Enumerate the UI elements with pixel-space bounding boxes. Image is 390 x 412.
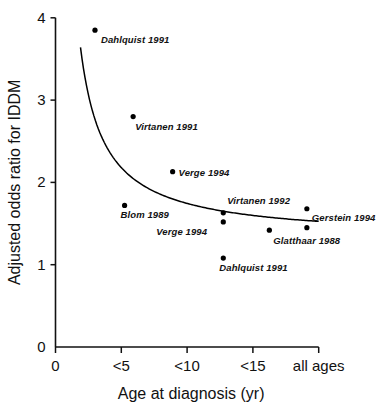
data-point <box>221 219 226 224</box>
data-point <box>221 256 226 261</box>
point-label: Dahlquist 1991 <box>219 262 287 273</box>
data-point <box>304 206 309 211</box>
x-tick-label-2: <10 <box>174 357 199 374</box>
x-tick-label-1: <5 <box>113 357 130 374</box>
y-tick-label-2: 2 <box>37 173 45 190</box>
data-point <box>267 228 272 233</box>
x-tick-label-4: all ages <box>293 357 345 374</box>
x-tick-label-0: 0 <box>51 357 59 374</box>
x-tick-label-3: <15 <box>240 357 265 374</box>
point-label: Verge 1994 <box>179 167 230 178</box>
data-point <box>170 169 175 174</box>
point-label: Virtanen 1992 <box>227 195 290 206</box>
y-tick-label-4: 4 <box>37 9 45 26</box>
x-axis-title: Age at diagnosis (yr) <box>118 385 265 402</box>
scatter-plot: 012340<5<10<15all ages Dahlquist 1991Vir… <box>0 0 390 412</box>
y-axis-title: Adjusted odds ratio for IDDM <box>6 80 23 285</box>
y-tick-label-0: 0 <box>37 338 45 355</box>
data-points: Dahlquist 1991Virtanen 1991Verge 1994Blo… <box>92 28 376 274</box>
point-label: Virtanen 1991 <box>135 121 198 132</box>
y-tick-label-3: 3 <box>37 91 45 108</box>
data-point <box>122 203 127 208</box>
point-label: Verge 1994 <box>156 226 207 237</box>
point-label: Blom 1989 <box>121 209 170 220</box>
y-tick-label-1: 1 <box>37 256 45 273</box>
data-point <box>304 225 309 230</box>
data-point <box>131 114 136 119</box>
chart-figure: 012340<5<10<15all ages Dahlquist 1991Vir… <box>0 0 390 412</box>
point-label: Gerstein 1994 <box>312 212 376 223</box>
data-point <box>92 28 97 33</box>
point-label: Dahlquist 1991 <box>101 34 169 45</box>
point-label: Glatthaar 1988 <box>273 235 340 246</box>
data-point <box>221 210 226 215</box>
